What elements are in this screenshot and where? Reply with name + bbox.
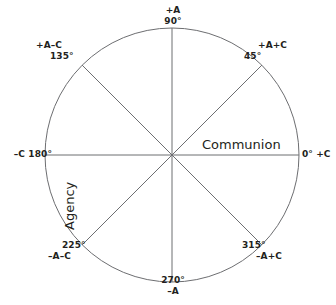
spoke-degree-315: 315°: [242, 240, 304, 251]
axis-label-agency: Agency: [63, 216, 143, 230]
spoke-label-0: 0° +C: [302, 149, 336, 160]
spoke-degree-135: 135°: [50, 51, 98, 62]
spoke-vector-270: –A: [144, 286, 202, 297]
spoke-label-270: 270° –A: [144, 275, 202, 297]
spoke-label-225: 225° –A–C: [48, 240, 110, 262]
spoke-label-90: +A 90°: [144, 5, 202, 27]
spoke-vector-45: +A+C: [258, 40, 306, 51]
spoke-vector-90: +A: [144, 5, 202, 16]
spoke-vector-225: –A–C: [48, 251, 110, 262]
spoke-vector-315: –A+C: [256, 251, 304, 262]
spoke-degree-90: 90°: [144, 16, 202, 27]
axis-label-communion: Communion: [202, 137, 281, 152]
spoke-label-180: –C 180°: [4, 149, 52, 160]
spoke-degree-270: 270°: [144, 275, 202, 286]
spoke-vector-135: +A–C: [36, 40, 98, 51]
spoke-degree-225: 225°: [62, 240, 110, 251]
circumplex-figure: +A 90° +A+C 45° +A–C 135° –C 180° 0° +C …: [0, 0, 336, 305]
spoke-label-135: +A–C 135°: [36, 40, 98, 62]
spoke-degree-45: 45°: [244, 51, 306, 62]
spoke-label-45: +A+C 45°: [244, 40, 306, 62]
spoke-label-315: 315° –A+C: [242, 240, 304, 262]
